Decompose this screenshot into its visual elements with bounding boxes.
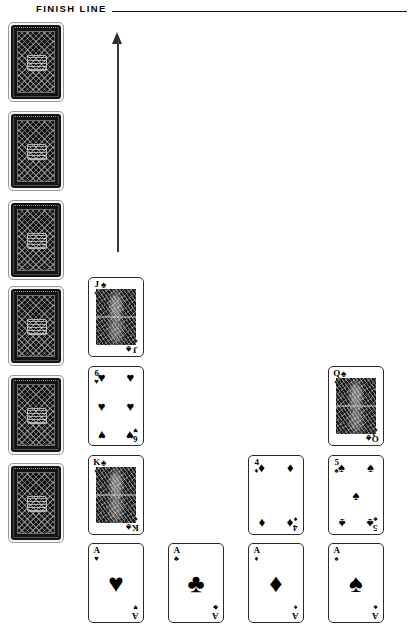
card-pip: ♦ (287, 461, 294, 474)
card-back-pattern (11, 203, 61, 277)
court-card-suit-icon: ♠ (126, 344, 131, 354)
card-pip-grid: ♥ (97, 550, 135, 616)
court-card-divider (96, 316, 136, 318)
finish-line-label: FINISH LINE (36, 3, 107, 14)
court-card-suit-icon: ♠ (101, 458, 106, 468)
card-back-pattern (11, 466, 61, 540)
card-back-pattern (11, 25, 61, 99)
face-down-card[interactable] (8, 463, 64, 543)
card-back-medallion (27, 408, 47, 424)
face-down-card[interactable] (8, 286, 64, 366)
face-down-card[interactable] (8, 22, 64, 102)
card-pip: ♥ (127, 400, 135, 413)
card-pip: ♠ (367, 461, 374, 474)
card-pip: ♦ (269, 570, 282, 596)
card-pip: ♥ (127, 429, 135, 442)
card-pip: ♥ (98, 370, 106, 383)
court-card-artwork (96, 467, 136, 523)
court-card-artwork (96, 289, 136, 345)
court-card-divider (336, 405, 376, 407)
card-back-pattern (11, 378, 61, 452)
card-pip: ♥ (108, 570, 123, 596)
playing-card[interactable]: A♦A♦♦ (248, 543, 304, 623)
card-pip: ♥ (98, 400, 106, 413)
card-pip: ♦ (287, 516, 294, 529)
finish-line: FINISH LINE (0, 0, 409, 22)
card-back-pattern (11, 289, 61, 363)
court-card-suit-icon: ♠ (341, 369, 346, 379)
court-card-artwork (336, 378, 376, 434)
playing-card[interactable]: Q♠Q♠♠♠ (328, 366, 384, 446)
card-pip: ♦ (258, 461, 265, 474)
card-back-medallion (27, 55, 47, 71)
playing-card[interactable]: K♠K♠♠♠ (88, 455, 144, 535)
playing-card[interactable]: 6♥6♥♥♥♥♥♥♥ (88, 366, 144, 446)
arrow-shaft (117, 40, 119, 252)
card-pip: ♦ (258, 516, 265, 529)
court-card-suit-icon: ♠ (126, 522, 131, 532)
card-pip: ♠ (338, 461, 345, 474)
card-back-medallion (27, 496, 47, 512)
card-rank: J (130, 345, 141, 354)
court-card-divider (96, 494, 136, 496)
card-back-medallion (27, 144, 47, 160)
card-pip: ♥ (127, 370, 135, 383)
card-back-medallion (27, 319, 47, 335)
playing-card[interactable]: A♣A♣♣ (168, 543, 224, 623)
playing-card[interactable]: 5♠5♠♠♠♠♠♠ (328, 455, 384, 535)
card-pip: ♠ (367, 516, 374, 529)
card-pip-grid: ♦ (257, 550, 295, 616)
movement-direction-arrow (110, 32, 126, 252)
playing-card[interactable]: A♥A♥♥ (88, 543, 144, 623)
playing-card[interactable]: A♠A♠♠ (328, 543, 384, 623)
card-rank: Q (370, 434, 381, 443)
card-race-board: FINISH LINE A♥A♥♥K♠K♠♠♠6♥6♥♥♥♥♥♥♥J♠J♠♠♠A… (0, 0, 409, 630)
card-pip-grid: ♣ (177, 550, 215, 616)
face-down-card[interactable] (8, 375, 64, 455)
card-rank: K (130, 523, 141, 532)
card-back-medallion (27, 233, 47, 249)
court-card-suit-icon: ♠ (366, 433, 371, 443)
court-card-suit-icon: ♠ (101, 280, 106, 290)
card-pip: ♠ (338, 516, 345, 529)
card-back-pattern (11, 114, 61, 188)
face-down-card[interactable] (8, 111, 64, 191)
card-pip: ♠ (353, 489, 360, 502)
card-pip: ♣ (187, 570, 204, 596)
card-pip-grid: ♠ (337, 550, 375, 616)
face-down-card[interactable] (8, 200, 64, 280)
card-pip: ♠ (349, 570, 363, 596)
finish-line-rule (112, 11, 407, 12)
card-pip-grid: ♦♦♦♦ (257, 462, 295, 528)
card-pip-grid: ♠♠♠♠♠ (337, 462, 375, 528)
playing-card[interactable]: 4♦4♦♦♦♦♦ (248, 455, 304, 535)
card-pip-grid: ♥♥♥♥♥♥ (97, 373, 135, 439)
card-pip: ♥ (98, 429, 106, 442)
playing-card[interactable]: J♠J♠♠♠ (88, 277, 144, 357)
